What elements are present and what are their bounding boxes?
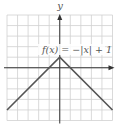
x-axis-arrow-icon — [109, 65, 115, 70]
function-label: f(x) = −|x| + 1 — [41, 44, 112, 56]
y-axis-label: y — [56, 0, 63, 11]
function-graph: y f(x) = −|x| + 1 — [0, 0, 117, 127]
axes — [4, 14, 115, 124]
